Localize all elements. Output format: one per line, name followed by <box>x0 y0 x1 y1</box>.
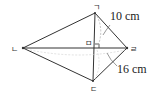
vertex-label-left: ㄴ <box>11 45 18 54</box>
edge-bottom-left <box>23 48 93 81</box>
measurement-upper: 10 cm <box>110 9 140 23</box>
vertex-label-bottom: ㄷ <box>90 85 97 94</box>
dashed-arc-lower <box>30 50 125 55</box>
vertex-label-center: ㅁ <box>85 39 92 48</box>
vertex-dot-left <box>22 47 24 49</box>
quadrilateral-diagram: ㄱ ㄴ ㄹ ㄷ ㅁ 10 cm 16 cm <box>0 0 165 101</box>
vertex-dot-top <box>94 12 96 14</box>
measurement-lower: 16 cm <box>117 62 147 76</box>
vertex-dot-bottom <box>92 80 94 82</box>
vertex-dot-right <box>126 47 128 49</box>
vertex-label-right: ㄹ <box>130 45 137 54</box>
dashed-arc-upper <box>97 16 101 46</box>
diagonal-vertical <box>93 13 95 81</box>
pointer-upper <box>103 25 110 35</box>
vertex-label-top: ㄱ <box>93 3 100 12</box>
